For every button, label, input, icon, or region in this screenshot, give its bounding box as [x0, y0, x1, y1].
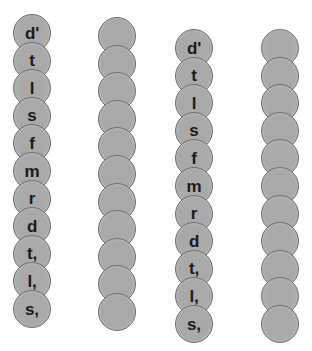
bead[interactable]: s, — [13, 290, 51, 328]
bead-label: t, — [27, 245, 37, 262]
bead-label: d' — [25, 24, 39, 41]
column-2-plain — [98, 0, 158, 351]
bead[interactable] — [98, 293, 136, 331]
bead-label: m — [25, 162, 40, 179]
bead-label: t — [29, 52, 34, 69]
diagram-canvas: d'tlsfmrdt,l,s,d'tlsfmrdt,l,s, — [0, 0, 312, 351]
column-1-labeled: d'tlsfmrdt,l,s, — [13, 0, 73, 351]
bead-label: f — [29, 134, 34, 151]
bead-label: s — [27, 107, 36, 124]
bead-label: l — [192, 94, 197, 111]
bead-label: r — [191, 205, 197, 222]
bead-label: d — [189, 232, 199, 249]
bead-label: s — [189, 122, 198, 139]
bead-label: l — [30, 79, 35, 96]
column-4-plain — [261, 0, 312, 351]
bead-label: l, — [189, 287, 198, 304]
bead[interactable]: s, — [175, 305, 213, 343]
column-3-labeled: d'tlsfmrdt,l,s, — [175, 0, 235, 351]
bead-label: f — [191, 149, 196, 166]
bead-label: s, — [25, 300, 39, 317]
bead-label: t — [191, 67, 196, 84]
bead-label: m — [187, 177, 202, 194]
bead-label: d' — [187, 39, 201, 56]
bead-label: t, — [189, 260, 199, 277]
bead-label: l, — [27, 272, 36, 289]
bead-label: r — [29, 190, 35, 207]
bead[interactable] — [261, 305, 299, 343]
bead-label: d — [27, 217, 37, 234]
bead-label: s, — [187, 315, 201, 332]
